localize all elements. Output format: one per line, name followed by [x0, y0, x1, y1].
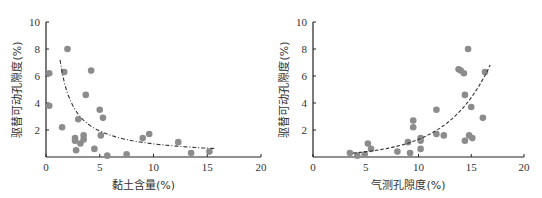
data-point	[417, 146, 424, 153]
data-point	[469, 135, 476, 142]
data-point	[59, 124, 66, 131]
y-axis-title: 驱替可动孔隙度(%)	[277, 41, 291, 137]
data-point	[465, 46, 472, 53]
x-tick-label: 0	[43, 161, 49, 173]
data-point	[104, 152, 111, 159]
data-point	[394, 148, 401, 155]
y-tick-label: 8	[35, 43, 41, 55]
y-axis-title: 驱替可动孔隙度(%)	[10, 41, 24, 137]
y-tick-label: 10	[296, 16, 308, 28]
y-tick-label: 10	[29, 16, 41, 28]
x-tick-label: 5	[97, 161, 103, 173]
data-point	[347, 150, 354, 157]
data-point	[123, 151, 130, 158]
x-tick-label: 10	[413, 161, 425, 173]
y-tick-label: 2	[302, 124, 308, 136]
data-point	[480, 115, 487, 122]
data-point	[462, 92, 469, 99]
x-tick-label: 20	[256, 161, 268, 173]
x-tick-label: 15	[466, 161, 478, 173]
chart-canvas: 05101520246810黏土含量(%)驱替可动孔隙度(%) 05101520…	[0, 0, 542, 198]
data-point	[146, 131, 153, 138]
data-point	[468, 104, 475, 111]
data-point	[46, 70, 53, 77]
data-point	[410, 117, 417, 124]
data-point	[46, 102, 53, 109]
data-point	[98, 132, 105, 139]
y-tick-label: 4	[35, 97, 41, 109]
x-tick-label: 20	[519, 161, 531, 173]
data-point	[175, 139, 182, 146]
clay-content-scatter-chart: 05101520246810黏土含量(%)驱替可动孔隙度(%)	[10, 16, 267, 192]
x-tick-label: 10	[148, 161, 160, 173]
data-point	[433, 106, 440, 113]
x-tick-label: 0	[310, 161, 316, 173]
data-point	[96, 106, 103, 113]
data-point	[73, 147, 80, 154]
data-point	[80, 136, 87, 143]
y-tick-label: 8	[302, 43, 308, 55]
data-point	[410, 124, 417, 131]
gas-porosity-scatter-chart: 05101520246810气测孔隙度(%)驱替可动孔隙度(%)	[277, 16, 530, 192]
data-point	[462, 138, 469, 145]
data-point	[441, 132, 448, 139]
data-point	[64, 46, 71, 53]
x-axis-title: 黏土含量(%)	[112, 178, 175, 192]
data-point	[75, 116, 82, 123]
data-point	[461, 70, 468, 77]
data-point	[100, 115, 107, 122]
y-tick-label: 6	[302, 70, 308, 82]
data-point	[206, 148, 213, 155]
y-tick-label: 4	[302, 97, 308, 109]
data-point	[82, 92, 89, 99]
y-tick-label: 6	[35, 70, 41, 82]
data-point	[88, 67, 95, 74]
data-point	[407, 150, 414, 157]
x-tick-label: 15	[202, 161, 214, 173]
y-tick-label: 2	[35, 124, 41, 136]
x-axis-title: 气测孔隙度(%)	[371, 178, 445, 192]
data-point	[188, 150, 195, 157]
x-tick-label: 5	[363, 161, 369, 173]
data-point	[139, 135, 146, 142]
data-point	[91, 146, 98, 153]
